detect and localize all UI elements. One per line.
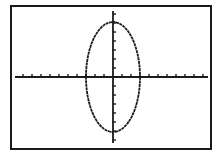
calculator-graph-screen [0,0,214,154]
